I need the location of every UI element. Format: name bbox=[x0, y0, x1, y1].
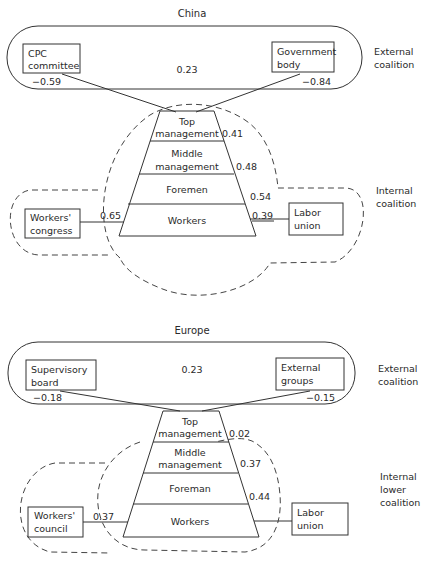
coalition-diagram: China External coalition CPC committee −… bbox=[0, 0, 430, 561]
connector-line bbox=[202, 391, 310, 411]
labor-union-label-2: union bbox=[294, 220, 321, 231]
level-middle-management-2: management bbox=[155, 161, 219, 172]
supervisory-board-label-1: Supervisory bbox=[31, 364, 88, 375]
level-foreman: Foreman bbox=[169, 483, 211, 494]
level-foremen-value: 0.54 bbox=[250, 191, 271, 202]
connector-line bbox=[60, 391, 180, 411]
level-workers: Workers bbox=[171, 516, 209, 527]
level-top-management-2: management bbox=[158, 428, 222, 439]
panel-title: China bbox=[178, 8, 207, 19]
workers-congress-label-2: congress bbox=[30, 225, 73, 236]
external-groups-label-2: groups bbox=[281, 375, 314, 386]
level-top-management-1: Top bbox=[181, 416, 198, 427]
level-foreman-value: 0.44 bbox=[249, 491, 270, 502]
external-groups-value: −0.15 bbox=[306, 392, 335, 403]
level-workers: Workers bbox=[168, 215, 206, 226]
workers-council-label-1: Workers' bbox=[34, 510, 75, 521]
workers-council-value: 0.37 bbox=[93, 511, 114, 522]
panel-europe: Europe External coalition Supervisory bo… bbox=[8, 325, 420, 553]
government-body-label-1: Government bbox=[277, 46, 337, 57]
external-center-value: 0.23 bbox=[181, 364, 202, 375]
connector-line bbox=[62, 74, 176, 112]
government-body-label-2: body bbox=[277, 59, 301, 70]
internal-coalition-label: Internal bbox=[380, 471, 417, 482]
level-middle-management-value: 0.37 bbox=[240, 458, 261, 469]
level-middle-management-2: management bbox=[158, 459, 222, 470]
government-body-value: −0.84 bbox=[302, 76, 331, 87]
workers-congress-value: 0.65 bbox=[100, 210, 121, 221]
level-top-management-value: 0.41 bbox=[222, 128, 243, 139]
panel-china: China External coalition CPC committee −… bbox=[7, 8, 416, 295]
external-center-value: 0.23 bbox=[176, 64, 197, 75]
supervisory-board-value: −0.18 bbox=[33, 392, 62, 403]
external-coalition-label-2: coalition bbox=[374, 59, 414, 70]
workers-congress-label-1: Workers' bbox=[30, 212, 71, 223]
external-coalition-label-2: coalition bbox=[378, 376, 418, 387]
supervisory-board-label-2: board bbox=[31, 377, 58, 388]
panel-title: Europe bbox=[174, 325, 209, 336]
level-middle-management-1: Middle bbox=[171, 148, 203, 159]
level-top-management-2: management bbox=[155, 128, 219, 139]
level-top-management-1: Top bbox=[178, 116, 195, 127]
external-groups-label-1: External bbox=[281, 362, 320, 373]
internal-coalition-label-2: lower bbox=[380, 484, 406, 495]
internal-coalition-label-2: coalition bbox=[376, 198, 416, 209]
cpc-committee-label-2: committee bbox=[28, 60, 79, 71]
labor-union-label-1: Labor bbox=[297, 507, 324, 518]
level-foremen: Foremen bbox=[166, 184, 208, 195]
external-coalition-label: External bbox=[378, 363, 417, 374]
level-middle-management-value: 0.48 bbox=[236, 161, 257, 172]
internal-coalition-label: Internal bbox=[376, 185, 413, 196]
labor-union-label-1: Labor bbox=[294, 207, 321, 218]
cpc-committee-label-1: CPC bbox=[28, 48, 47, 59]
level-middle-management-1: Middle bbox=[174, 447, 206, 458]
level-top-management-value: 0.02 bbox=[229, 428, 250, 439]
labor-union-label-2: union bbox=[297, 520, 324, 531]
external-coalition-label: External bbox=[374, 46, 413, 57]
internal-coalition-label-3: coalition bbox=[380, 497, 420, 508]
workers-council-label-2: council bbox=[34, 523, 68, 534]
cpc-committee-value: −0.59 bbox=[32, 76, 61, 87]
